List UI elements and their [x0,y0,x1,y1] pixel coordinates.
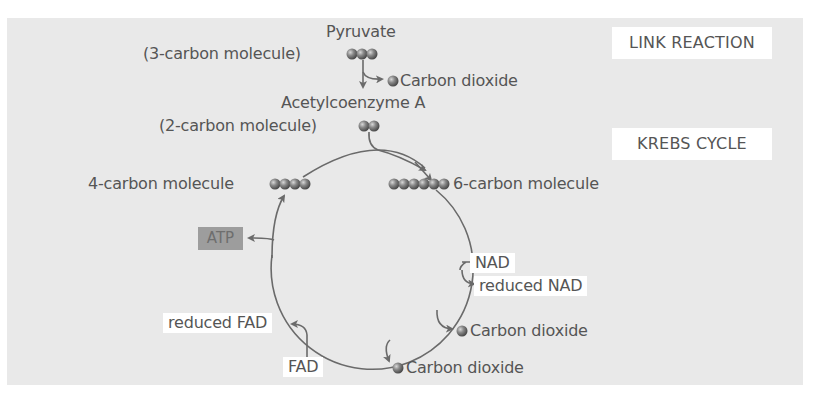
four-carbon-molecule-icon [270,179,311,190]
pyruvate-molecule-icon [347,49,378,60]
acetyl-coa-label: Acetylcoenzyme A [281,94,425,112]
cycle-arc-right-bottom [271,190,473,369]
krebs-cycle-heading: KREBS CYCLE [612,128,772,160]
pyruvate-desc: (3-carbon molecule) [143,45,301,63]
acetyl-coa-molecule-icon [359,121,380,132]
pyruvate-label: Pyruvate [326,23,396,41]
cycle-arc-top-arrow [415,162,431,180]
cycle-arc-top [303,150,425,177]
cycle-co2-label-2: Carbon dioxide [406,359,524,377]
link-co2-molecule-icon [388,76,399,87]
link-co2-arrow [363,72,382,79]
krebs-cycle-diagram [0,0,818,395]
reduced-nad-label: reduced NAD [474,276,587,296]
nad-in-line [460,262,470,270]
atp-label: ATP [198,227,243,250]
acetyl-coa-desc: (2-carbon molecule) [159,117,317,135]
fad-arrow [292,324,307,359]
link-reaction-heading: LINK REACTION [612,27,772,59]
cycle-arc-left-up [272,196,284,258]
cycle-co2-arrow-1 [437,310,452,329]
fad-label: FAD [283,357,323,377]
atp-arrow [249,238,274,240]
six-carbon-molecule-icon [389,179,450,190]
nad-label: NAD [470,253,515,273]
cycle-co2-arrow-2 [386,340,390,361]
reduced-fad-label: reduced FAD [163,313,272,333]
four-carbon-label: 4-carbon molecule [88,175,234,193]
six-carbon-label: 6-carbon molecule [453,175,599,193]
link-co2-label: Carbon dioxide [400,72,518,90]
cycle-co2-label-1: Carbon dioxide [470,322,588,340]
cycle-co2-molecule-icon-2 [393,363,404,374]
cycle-co2-molecule-icon-1 [457,326,468,337]
